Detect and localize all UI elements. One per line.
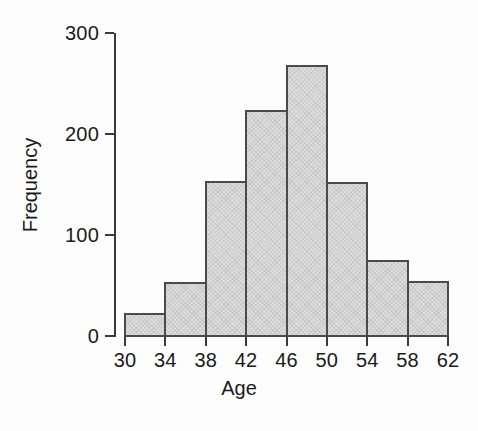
plot-area: 0100200300 303438424650545862 Age Freque…	[0, 0, 478, 431]
histogram-bar	[205, 181, 247, 337]
histogram-bar	[407, 281, 449, 337]
x-tick-mark	[164, 337, 166, 346]
histogram-bar	[286, 65, 328, 337]
histogram-bar	[326, 182, 368, 337]
y-tick-label: 0	[88, 326, 99, 346]
x-tick-label: 42	[224, 350, 268, 370]
x-axis-title: Age	[0, 378, 478, 398]
x-tick-label: 34	[143, 350, 187, 370]
x-tick-mark	[407, 337, 409, 346]
x-tick-label: 54	[345, 350, 389, 370]
x-tick-mark	[447, 337, 449, 346]
y-tick-label: 100	[65, 225, 99, 245]
y-tick-mark	[105, 32, 114, 34]
histogram-figure: 0100200300 303438424650545862 Age Freque…	[0, 0, 478, 431]
y-axis-title: Frequency	[20, 85, 40, 285]
y-tick-label: 300	[65, 23, 99, 43]
x-tick-mark	[326, 337, 328, 346]
histogram-bar	[366, 260, 408, 337]
x-tick-label: 62	[426, 350, 470, 370]
x-tick-mark	[286, 337, 288, 346]
x-tick-mark	[245, 337, 247, 346]
y-axis-line	[114, 33, 116, 337]
x-tick-label: 46	[265, 350, 309, 370]
histogram-bar	[124, 313, 166, 337]
y-tick-mark	[105, 234, 114, 236]
x-tick-label: 30	[103, 350, 147, 370]
x-tick-mark	[205, 337, 207, 346]
y-tick-label: 200	[65, 124, 99, 144]
x-tick-label: 58	[386, 350, 430, 370]
y-tick-mark	[105, 335, 114, 337]
x-tick-mark	[366, 337, 368, 346]
y-tick-mark	[105, 133, 114, 135]
histogram-bar	[164, 282, 206, 337]
x-tick-label: 50	[305, 350, 349, 370]
x-tick-label: 38	[184, 350, 228, 370]
histogram-bar	[245, 110, 287, 337]
x-tick-mark	[124, 337, 126, 346]
